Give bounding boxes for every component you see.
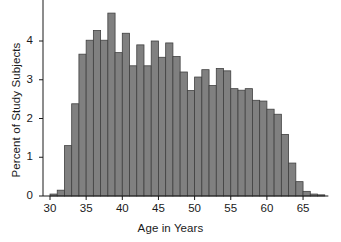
histogram-figure: Percent of Study Subjects Age in Years 0… bbox=[0, 0, 341, 242]
histogram-bar bbox=[252, 100, 259, 196]
histogram-bar bbox=[79, 54, 86, 196]
x-tick-label: 65 bbox=[292, 202, 314, 214]
x-tick-label: 40 bbox=[111, 202, 133, 214]
x-tick-label: 45 bbox=[147, 202, 169, 214]
bar-series bbox=[50, 13, 325, 196]
histogram-bar bbox=[137, 45, 144, 196]
y-tick-label: 0 bbox=[19, 189, 33, 201]
histogram-bar bbox=[166, 43, 173, 196]
histogram-bar bbox=[187, 91, 194, 196]
histogram-bar bbox=[202, 70, 209, 196]
histogram-bar bbox=[72, 104, 79, 196]
histogram-bar bbox=[289, 163, 296, 196]
histogram-bar bbox=[115, 53, 122, 196]
histogram-bar bbox=[267, 109, 274, 196]
y-tick-label: 2 bbox=[19, 112, 33, 124]
x-tick-label: 55 bbox=[220, 202, 242, 214]
histogram-bar bbox=[130, 66, 137, 196]
histogram-bar bbox=[101, 40, 108, 196]
histogram-bar bbox=[173, 57, 180, 197]
y-tick-label: 4 bbox=[19, 34, 33, 46]
histogram-bar bbox=[245, 89, 252, 196]
histogram-bar bbox=[224, 71, 231, 196]
histogram-bar bbox=[180, 72, 187, 196]
y-axis-title: Percent of Study Subjects bbox=[10, 20, 22, 200]
histogram-bar bbox=[281, 134, 288, 196]
histogram-bar bbox=[144, 66, 151, 196]
histogram-bar bbox=[195, 77, 202, 196]
histogram-bar bbox=[303, 191, 310, 196]
histogram-bar bbox=[216, 69, 223, 196]
x-tick-label: 35 bbox=[75, 202, 97, 214]
histogram-bar bbox=[122, 33, 129, 196]
histogram-bar bbox=[260, 101, 267, 196]
histogram-bar bbox=[93, 31, 100, 196]
y-tick-label: 3 bbox=[19, 73, 33, 85]
y-tick-label: 1 bbox=[19, 150, 33, 162]
x-tick-label: 30 bbox=[39, 202, 61, 214]
histogram-bar bbox=[231, 89, 238, 196]
histogram-bar bbox=[86, 40, 93, 196]
histogram-bar bbox=[57, 190, 64, 196]
histogram-bar bbox=[238, 90, 245, 196]
x-axis-title: Age in Years bbox=[0, 222, 341, 234]
histogram-bar bbox=[209, 86, 216, 196]
histogram-bar bbox=[296, 182, 303, 196]
x-tick-label: 50 bbox=[184, 202, 206, 214]
histogram-bar bbox=[151, 41, 158, 196]
x-tick-label: 60 bbox=[256, 202, 278, 214]
histogram-bar bbox=[108, 13, 115, 196]
histogram-bar bbox=[274, 114, 281, 196]
histogram-bar bbox=[158, 57, 165, 196]
histogram-bar bbox=[64, 146, 71, 196]
